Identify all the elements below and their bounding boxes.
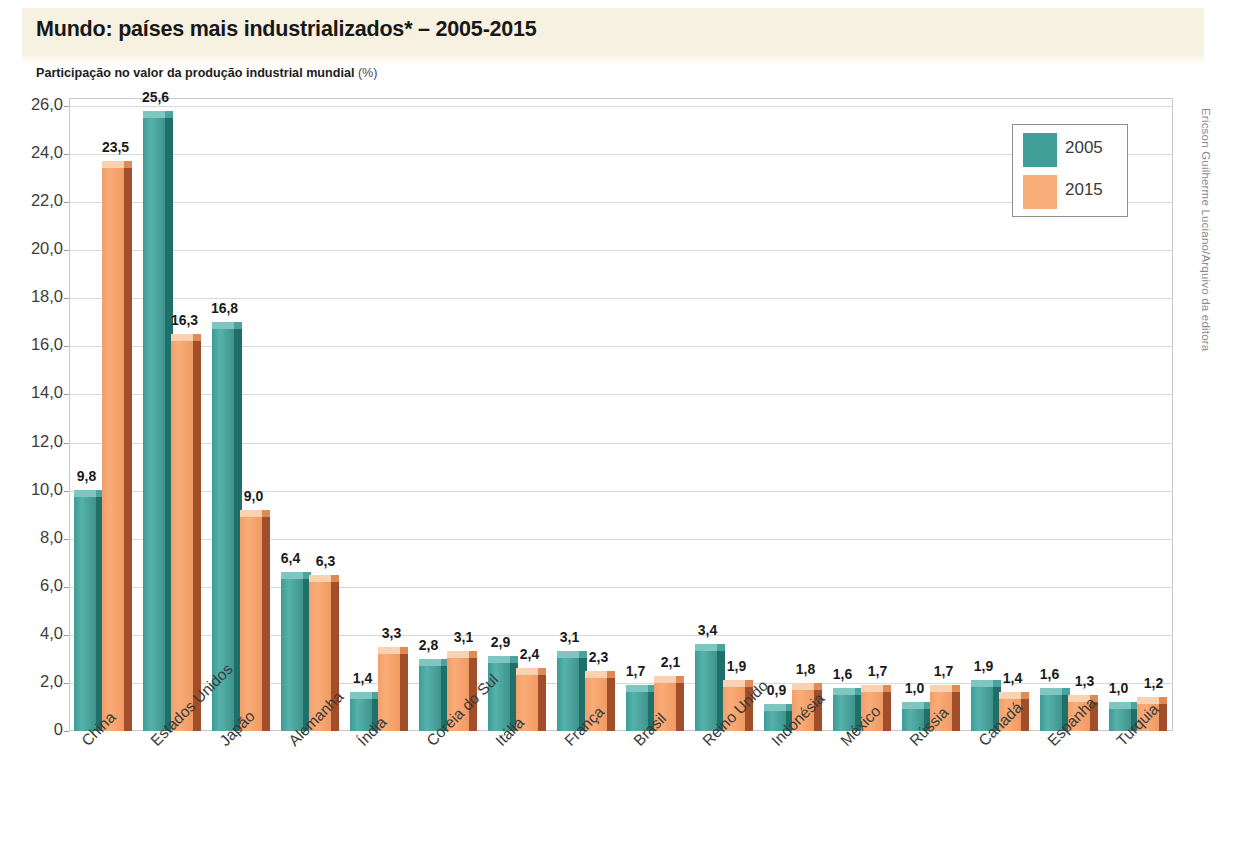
legend-label-2015: 2015 [1065, 180, 1103, 200]
chart-subtitle-text: Participação no valor da produção indust… [36, 66, 358, 80]
bar-value-label-2005: 3,1 [550, 629, 590, 645]
bar-group [764, 98, 818, 731]
y-axis-tick-label: 20,0 [5, 239, 63, 258]
bar-top-side-face [331, 575, 339, 582]
bar-top-side-face [1159, 697, 1167, 704]
bar-front-face [171, 339, 193, 731]
chart-subtitle-unit: (%) [358, 66, 378, 80]
bar-front-face [281, 577, 303, 731]
bar-top-side-face [262, 510, 270, 517]
bar-group [281, 98, 335, 731]
bar-group [902, 98, 956, 731]
bar-value-label-2005: 1,6 [1030, 666, 1070, 682]
bar-top-side-face [165, 111, 173, 118]
bar-top-face [74, 490, 96, 497]
y-axis-tick-label: 18,0 [5, 287, 63, 306]
bar-top-side-face [717, 644, 725, 651]
bars-layer: 9,823,525,616,316,89,06,46,31,43,32,83,1… [69, 98, 1173, 731]
y-axis-tick-label: 24,0 [5, 143, 63, 162]
y-axis-tick-label: 22,0 [5, 191, 63, 210]
bar-group [74, 98, 128, 731]
bar-front-face [557, 656, 579, 731]
bar-value-label-2015: 16,3 [165, 312, 205, 328]
bar-top-side-face [400, 647, 408, 654]
bar-value-label-2015: 3,3 [372, 625, 412, 641]
bar-front-face [102, 166, 124, 731]
bar-top-side-face [607, 671, 615, 678]
bar-2015 [102, 166, 124, 731]
bar-top-side-face [952, 685, 960, 692]
bar-side-face [883, 690, 891, 731]
bar-top-side-face [883, 685, 891, 692]
bar-side-face [400, 652, 408, 731]
bar-top-face [626, 685, 648, 692]
bar-group [833, 98, 887, 731]
y-axis-tick-label: 0 [5, 720, 63, 739]
bar-top-face [723, 680, 745, 687]
bar-top-side-face [124, 161, 132, 168]
bar-side-face [262, 515, 270, 731]
bar-top-face [516, 668, 538, 675]
bar-value-label-2005: 1,6 [823, 666, 863, 682]
bar-top-face [764, 704, 786, 711]
bar-value-label-2015: 2,3 [579, 649, 619, 665]
bar-value-label-2005: 6,4 [271, 550, 311, 566]
bar-2005 [143, 116, 165, 731]
bar-top-face [585, 671, 607, 678]
bar-value-label-2015: 1,2 [1134, 675, 1174, 691]
y-axis-tick-label: 6,0 [5, 576, 63, 595]
bar-top-face [861, 685, 883, 692]
bar-top-side-face [538, 668, 546, 675]
bar-value-label-2005: 2,8 [409, 637, 449, 653]
bar-top-face [419, 659, 441, 666]
bar-value-label-2005: 9,8 [67, 468, 107, 484]
bar-top-face [102, 161, 124, 168]
bar-2005 [557, 656, 579, 731]
bar-top-face [999, 692, 1021, 699]
bar-front-face [143, 116, 165, 731]
bar-side-face [538, 673, 546, 731]
image-credit: Ericson Guilherme Luciano/Arquivo da edi… [1200, 108, 1212, 351]
bar-top-face [695, 644, 717, 651]
bar-front-face [74, 495, 96, 731]
bar-top-side-face [676, 676, 684, 683]
bar-value-label-2015: 1,7 [924, 663, 964, 679]
bar-top-face [488, 656, 510, 663]
bar-top-face [1040, 688, 1062, 695]
bar-top-side-face [193, 334, 201, 341]
title-band-fade [22, 56, 1204, 66]
bar-2005 [74, 495, 96, 731]
legend-label-2005: 2005 [1065, 138, 1103, 158]
bar-top-face [902, 702, 924, 709]
bar-2005 [281, 577, 303, 731]
bar-top-face [309, 575, 331, 582]
bar-value-label-2015: 6,3 [306, 553, 346, 569]
y-axis-tick-label: 14,0 [5, 383, 63, 402]
bar-value-label-2015: 9,0 [234, 488, 274, 504]
bar-value-label-2015: 3,1 [444, 629, 484, 645]
bar-2015 [171, 339, 193, 731]
bar-top-face [1109, 702, 1131, 709]
chart-page: Mundo: países mais industrializados* – 2… [0, 0, 1253, 857]
bar-side-face [607, 676, 615, 731]
bar-top-face [971, 680, 993, 687]
bar-value-label-2015: 1,7 [858, 663, 898, 679]
bar-top-side-face [469, 651, 477, 658]
bar-front-face [695, 649, 717, 731]
bar-top-face [447, 651, 469, 658]
bar-side-face [952, 690, 960, 731]
legend-item-2005: 2005 [1023, 133, 1123, 167]
y-axis-tick-label: 4,0 [5, 624, 63, 643]
bar-value-label-2005: 1,4 [343, 670, 383, 686]
bar-value-label-2005: 3,4 [688, 622, 728, 638]
legend-swatch-2005 [1023, 133, 1057, 167]
chart-subtitle: Participação no valor da produção indust… [36, 66, 378, 80]
bar-value-label-2015: 2,4 [510, 646, 550, 662]
page-title: Mundo: países mais industrializados* – 2… [36, 17, 537, 42]
bar-side-face [676, 681, 684, 731]
legend: 20052015 [1012, 124, 1128, 217]
bar-top-face [557, 651, 579, 658]
y-axis-tick-label: 12,0 [5, 432, 63, 451]
bar-value-label-2015: 1,9 [717, 658, 757, 674]
bar-top-face [281, 572, 303, 579]
